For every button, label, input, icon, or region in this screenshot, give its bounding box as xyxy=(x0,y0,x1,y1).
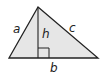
triangle-diagram: a h c b xyxy=(0,0,105,76)
label-b: b xyxy=(50,61,58,75)
label-c: c xyxy=(69,21,76,35)
label-h: h xyxy=(42,27,50,41)
label-a: a xyxy=(13,22,20,36)
triangle xyxy=(9,7,98,58)
